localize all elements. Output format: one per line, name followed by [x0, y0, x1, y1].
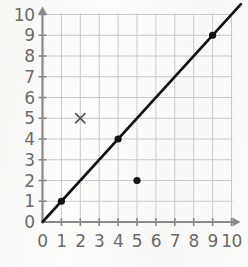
x-axis-tick-label-0: 0: [37, 233, 47, 250]
point-marker-9-9: [209, 32, 216, 39]
x-axis-tick-label-1: 1: [56, 233, 66, 250]
y-axis-tick-label-2: 2: [24, 172, 34, 189]
point-marker-4-4: [115, 135, 122, 142]
plot-canvas: [0, 0, 248, 267]
y-axis-tick-label-6: 6: [24, 89, 34, 106]
y-axis-tick-label-5: 5: [24, 110, 34, 127]
x-axis-tick-label-5: 5: [132, 233, 142, 250]
y-axis-tick-label-1: 1: [24, 193, 34, 210]
y-axis-tick-label-9: 9: [24, 27, 34, 44]
point-marker-5-2: [133, 177, 140, 184]
x-axis-tick-label-2: 2: [75, 233, 85, 250]
x-axis-arrow: [233, 218, 241, 227]
point-marker-1-1: [58, 198, 65, 205]
coordinate-grid-figure: 012345678910012345678910: [0, 0, 248, 267]
y-axis-tick-label-10: 10: [14, 6, 35, 23]
x-axis-tick-label-9: 9: [207, 233, 217, 250]
y-axis-tick-label-0: 0: [24, 214, 34, 231]
x-axis-tick-label-7: 7: [170, 233, 180, 250]
x-axis-tick-label-10: 10: [221, 233, 242, 250]
x-axis-tick-label-8: 8: [189, 233, 199, 250]
x-axis-tick-label-4: 4: [113, 233, 123, 250]
y-axis-arrow: [38, 7, 47, 15]
x-axis-tick-label-3: 3: [94, 233, 104, 250]
y-axis-tick-label-7: 7: [24, 68, 34, 85]
x-axis-tick-label-6: 6: [151, 233, 161, 250]
y-axis-tick-label-4: 4: [24, 131, 34, 148]
y-axis-tick-label-8: 8: [24, 48, 34, 65]
y-axis-tick-label-3: 3: [24, 151, 34, 168]
